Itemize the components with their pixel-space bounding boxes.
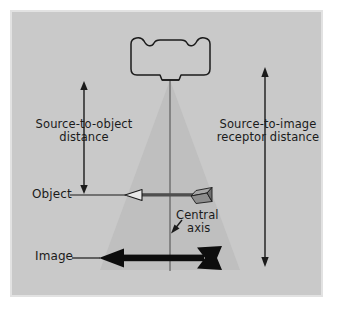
label-object: Object <box>32 188 72 202</box>
label-source-to-object-distance: Source-to-object distance <box>28 118 140 145</box>
figure-root: Source-to-object distance Source-to-imag… <box>0 0 340 309</box>
label-central-axis: Centralaxis <box>176 209 240 236</box>
label-source-to-image-receptor-distance: Source-to-image receptor distance <box>208 118 328 145</box>
label-central-axis-line2: axis <box>176 222 240 235</box>
label-image: Image <box>35 250 73 264</box>
label-central-axis-line1: Central <box>176 208 219 222</box>
